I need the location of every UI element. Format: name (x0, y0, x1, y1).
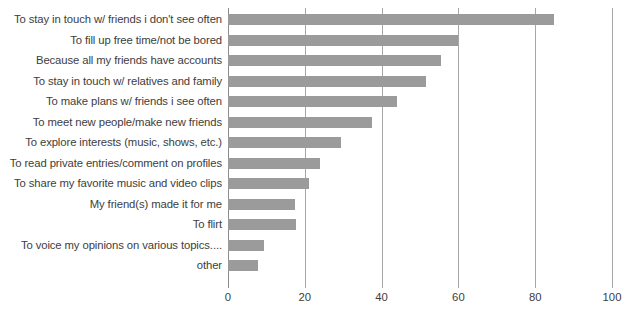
category-label: To fill up free time/not be bored (0, 30, 222, 51)
category-label: To share my favorite music and video cli… (0, 173, 222, 194)
bar-row (228, 214, 612, 235)
bar-row (228, 30, 612, 51)
bar (228, 199, 295, 210)
category-label: To make plans w/ friends i see often (0, 91, 222, 112)
category-label: To stay in touch w/ relatives and family (0, 71, 222, 92)
tick-label: 60 (452, 291, 465, 303)
category-label: To flirt (0, 214, 222, 235)
category-axis-labels: To stay in touch w/ friends i don't see … (0, 8, 222, 288)
bar-row (228, 235, 612, 256)
bar-row (228, 194, 612, 215)
bar (228, 117, 372, 128)
category-label: other (0, 255, 222, 276)
gridline (612, 8, 613, 288)
category-label: To meet new people/make new friends (0, 112, 222, 133)
category-label: To stay in touch w/ friends i don't see … (0, 9, 222, 30)
category-label: Because all my friends have accounts (0, 50, 222, 71)
bar (228, 260, 258, 271)
tick-label: 40 (375, 291, 388, 303)
bar-row (228, 112, 612, 133)
bar-row (228, 9, 612, 30)
plot-area (228, 8, 612, 288)
bar-series (228, 8, 612, 288)
category-label: To voice my opinions on various topics..… (0, 235, 222, 256)
value-axis-tick-labels: 020406080100 (228, 291, 612, 311)
bar (228, 35, 458, 46)
bar (228, 137, 341, 148)
bar (228, 55, 441, 66)
bar (228, 96, 397, 107)
bar-row (228, 91, 612, 112)
bar (228, 219, 296, 230)
category-label: To explore interests (music, shows, etc.… (0, 132, 222, 153)
bar (228, 240, 264, 251)
tick-label: 20 (299, 291, 312, 303)
bar-row (228, 173, 612, 194)
bar-chart: To stay in touch w/ friends i don't see … (0, 0, 628, 313)
bar-row (228, 255, 612, 276)
bar-row (228, 50, 612, 71)
tick-label: 100 (603, 291, 622, 303)
bar (228, 178, 309, 189)
bar (228, 158, 320, 169)
category-label: To read private entries/comment on profi… (0, 153, 222, 174)
bar-row (228, 132, 612, 153)
bar (228, 76, 426, 87)
tick-label: 80 (529, 291, 542, 303)
bar-row (228, 153, 612, 174)
tick-label: 0 (225, 291, 231, 303)
category-label: My friend(s) made it for me (0, 194, 222, 215)
bar (228, 14, 554, 25)
bar-row (228, 71, 612, 92)
